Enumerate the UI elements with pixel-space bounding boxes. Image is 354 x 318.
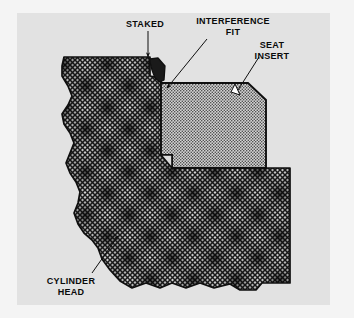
- label-cylinder-head: CYLINDER HEAD: [36, 276, 106, 297]
- seat-insert-part: [155, 78, 275, 178]
- diagram-root: STAKED INTERFERENCE FIT SEAT INSERT CYLI…: [0, 0, 354, 318]
- label-staked: STAKED: [116, 19, 174, 30]
- label-seat-insert: SEAT INSERT: [246, 40, 298, 61]
- leader-interference-fit: [167, 39, 207, 88]
- label-interference-fit: INTERFERENCE FIT: [196, 16, 270, 37]
- cross-section-drawing: [0, 0, 354, 318]
